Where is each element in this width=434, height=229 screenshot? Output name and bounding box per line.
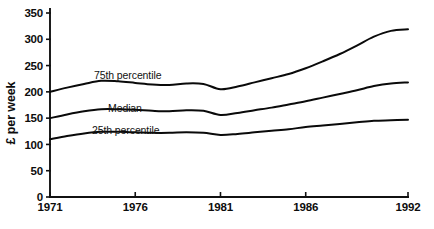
x-axis: 19711976198119861992 [38,192,421,213]
series-labels-group: 75th percentileMedian25th percentile [92,69,162,136]
y-tick-label: 250 [24,60,43,72]
x-tick-label: 1976 [123,201,148,213]
series-label: Median [108,102,142,114]
x-tick-label: 1971 [38,201,64,213]
y-tick-label: 150 [24,112,43,124]
y-tick-label: 200 [24,86,43,98]
y-tick-label: 350 [24,7,43,19]
y-axis: 050100150200250300350 [24,7,51,203]
series-label: 75th percentile [94,69,162,81]
series-line [50,29,408,92]
line-chart: 050100150200250300350 197119761981198619… [0,0,434,229]
series-label: 25th percentile [92,124,160,136]
x-tick-label: 1986 [293,201,318,213]
y-tick-label: 300 [24,33,43,45]
x-tick-label: 1981 [208,201,234,213]
y-tick-label: 50 [31,165,43,177]
y-axis-title: £ per week [4,81,18,144]
x-tick-label: 1992 [396,201,421,213]
chart-canvas: 050100150200250300350 197119761981198619… [0,0,434,229]
y-tick-label: 100 [24,139,43,151]
data-series-group [50,29,408,139]
